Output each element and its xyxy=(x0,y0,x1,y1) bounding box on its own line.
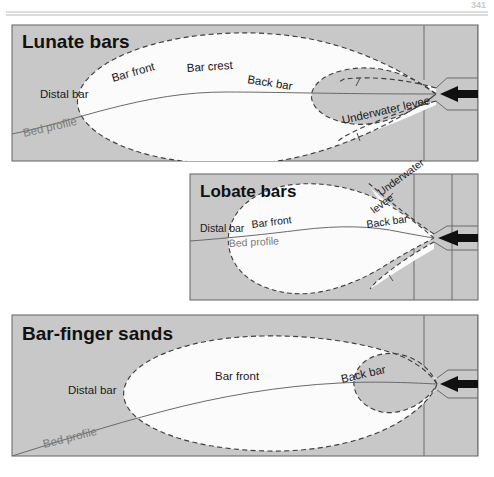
panel-bar-finger-sands: Bar-finger sands Distal bar Bar front Ba… xyxy=(12,315,478,456)
label-distal-bar: Distal bar xyxy=(68,384,117,396)
panel-lunate-bars: Lunate bars Distal bar Bar front Bar cre… xyxy=(12,25,478,164)
panel-lobate-bars: Lobate bars Distal bar Bar front Back ba… xyxy=(190,156,478,300)
label-bar-front: Bar front xyxy=(215,370,260,382)
figure-root: 341 xyxy=(0,0,494,477)
panel-title: Lunate bars xyxy=(22,31,130,52)
panel-title: Bar-finger sands xyxy=(22,323,173,344)
page-header: 341 xyxy=(6,0,488,15)
label-distal-bar: Distal bar xyxy=(40,88,89,100)
panel-title: Lobate bars xyxy=(200,182,296,201)
label-distal-bar: Distal bar xyxy=(200,222,245,234)
page-number: 341 xyxy=(471,0,486,10)
